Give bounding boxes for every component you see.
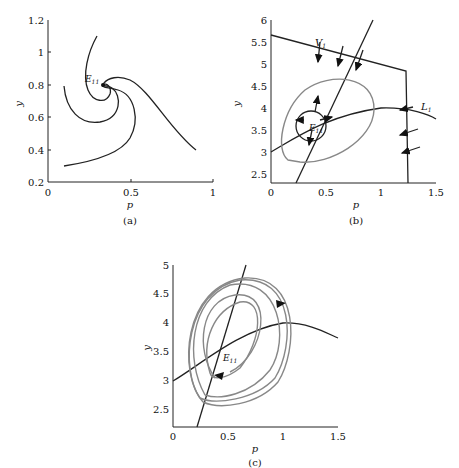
- ytick: 1: [38, 47, 44, 58]
- svg-text:4: 4: [163, 317, 169, 328]
- axes-b: [271, 20, 436, 183]
- l1-curve-c: [173, 323, 338, 381]
- panel-a: 0.2 0.4 0.6 0.8 1 1.2 0 0.5 1 p y (a) E1…: [13, 15, 216, 226]
- svg-text:5.5: 5.5: [251, 37, 267, 48]
- panel-b: 2.5 3 3.5 4 4.5 5 5.5 6 0 0.5 1 1.5 p y …: [231, 15, 444, 226]
- ytick: 1.2: [28, 15, 44, 26]
- svg-text:4.5: 4.5: [251, 81, 267, 92]
- ytick: 0.4: [28, 145, 44, 156]
- svg-text:4.5: 4.5: [153, 288, 169, 299]
- svg-text:5: 5: [261, 59, 267, 70]
- svg-text:4: 4: [261, 103, 267, 114]
- svg-text:2.5: 2.5: [153, 404, 169, 415]
- caption-b: (b): [349, 215, 363, 226]
- ytick: 0.6: [28, 112, 44, 123]
- trajectories-a: [64, 36, 196, 166]
- svg-text:0: 0: [170, 431, 176, 442]
- xtick: 1: [210, 187, 216, 198]
- figure: 0.2 0.4 0.6 0.8 1 1.2 0 0.5 1 p y (a) E1…: [0, 0, 459, 468]
- svg-text:2.5: 2.5: [251, 169, 267, 180]
- v1-label: V1: [315, 37, 326, 49]
- equilibrium-point: [101, 83, 105, 87]
- ylabel-b: y: [231, 101, 242, 108]
- l1-label: L1: [420, 101, 431, 113]
- caption-a: (a): [123, 215, 137, 226]
- svg-text:3.5: 3.5: [153, 346, 169, 357]
- svg-text:0.5: 0.5: [318, 187, 334, 198]
- svg-text:1.5: 1.5: [428, 187, 444, 198]
- xlabel-a: p: [127, 199, 134, 210]
- equilibrium-label-c: E11: [222, 353, 237, 364]
- caption-c: (c): [248, 457, 262, 468]
- svg-text:1: 1: [378, 187, 384, 198]
- flow-arrows-c: [214, 300, 286, 380]
- limit-cycle-c: [189, 278, 291, 406]
- ytick: 0.8: [28, 80, 44, 91]
- ylabel-c: y: [141, 345, 152, 352]
- svg-text:1: 1: [280, 431, 286, 442]
- svg-text:0: 0: [268, 187, 274, 198]
- axes-c: [173, 265, 338, 427]
- xtick: 0.5: [123, 187, 139, 198]
- svg-text:6: 6: [261, 15, 267, 26]
- svg-text:3: 3: [261, 147, 267, 158]
- xtick: 0: [45, 187, 51, 198]
- svg-text:0.5: 0.5: [220, 431, 236, 442]
- svg-text:3: 3: [163, 375, 169, 386]
- xlabel-b: p: [353, 199, 360, 210]
- l1-curve: [271, 108, 436, 152]
- equilibrium-label-a: E11: [84, 74, 99, 85]
- svg-text:1.5: 1.5: [330, 431, 346, 442]
- gray-orbit: [282, 79, 374, 162]
- ylabel-a: y: [13, 101, 24, 108]
- svg-text:5: 5: [163, 260, 169, 271]
- panel-c: 2.5 3 3.5 4 4.5 5 0 0.5 1 1.5 p y (c) E1…: [141, 260, 346, 468]
- svg-text:3.5: 3.5: [251, 125, 267, 136]
- ytick: 0.2: [28, 177, 44, 188]
- xlabel-c: p: [252, 443, 259, 454]
